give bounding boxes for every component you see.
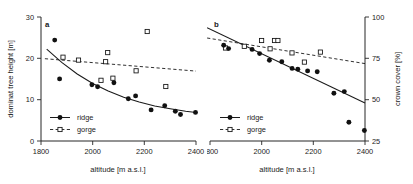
panel-a: 30 20 10 0 1800 2000 2200 2400 altitude … (0, 0, 206, 184)
panel-b: 100 75 50 25 1800 2000 2200 2400 altitud… (207, 0, 413, 184)
panel-b-legend-gorge-label: gorge (247, 125, 266, 134)
panel-a-y-axis: 30 20 10 0 (26, 13, 41, 146)
panel-a-ytick-30: 30 (26, 13, 34, 22)
panel-b-ytick-50: 50 (372, 95, 380, 104)
panel-a-gorge-points (61, 29, 168, 88)
panel-b-legend: ridge gorge (220, 113, 266, 134)
panel-b-y-axis-title: crown cover [%] (393, 52, 402, 106)
panel-a-ridge-points (52, 38, 198, 117)
panel-b-ytick-25: 25 (372, 137, 380, 146)
panel-b-ytick-75: 75 (372, 54, 380, 63)
panel-b-plot: 100 75 50 25 1800 2000 2200 2400 altitud… (207, 0, 413, 184)
panel-b-legend-ridge-label: ridge (247, 113, 263, 122)
panel-b-x-axis: 1800 2000 2200 2400 (207, 141, 373, 156)
panel-a-ridge-fit-curve (47, 49, 196, 112)
panel-a-xtick-1800: 1800 (33, 147, 49, 156)
panel-a-ytick-10: 10 (26, 95, 34, 104)
panel-b-y-axis: 100 75 50 25 (365, 13, 384, 146)
panel-b-ridge-fit-line (207, 28, 365, 103)
panel-a-xtick-2000: 2000 (84, 147, 100, 156)
panel-b-ytick-100: 100 (372, 13, 384, 22)
figure-container: 30 20 10 0 1800 2000 2200 2400 altitude … (0, 0, 413, 184)
panel-a-ytick-0: 0 (30, 137, 34, 146)
panel-a-x-axis-title: altitude [m a.s.l.] (90, 165, 145, 174)
panel-a-legend-gorge-label: gorge (77, 125, 96, 134)
panel-a-tag: a (45, 20, 50, 29)
panel-a-ytick-20: 20 (26, 54, 34, 63)
panel-b-gorge-fit-line (207, 38, 365, 64)
panel-b-xtick-2000: 2000 (253, 147, 269, 156)
panel-a-xtick-2400: 2400 (188, 147, 204, 156)
panel-a-x-axis: 1800 2000 2200 2400 (33, 141, 204, 156)
panel-b-xtick-2400: 2400 (357, 147, 373, 156)
panel-a-xtick-2200: 2200 (136, 147, 152, 156)
panel-a-gorge-fit-line (45, 59, 196, 71)
panel-a-legend: ridge gorge (50, 113, 96, 134)
panel-a-y-axis-title: dominat tree height [m] (6, 40, 15, 118)
panel-b-xtick-1800: 1800 (207, 147, 218, 156)
panel-b-xtick-2200: 2200 (305, 147, 321, 156)
panel-a-plot: 30 20 10 0 1800 2000 2200 2400 altitude … (0, 0, 206, 184)
panel-b-tag: b (214, 20, 219, 29)
panel-a-legend-ridge-label: ridge (77, 113, 93, 122)
panel-b-x-axis-title: altitude [m a.s.l.] (259, 165, 314, 174)
panel-b-ridge-points (221, 43, 367, 133)
